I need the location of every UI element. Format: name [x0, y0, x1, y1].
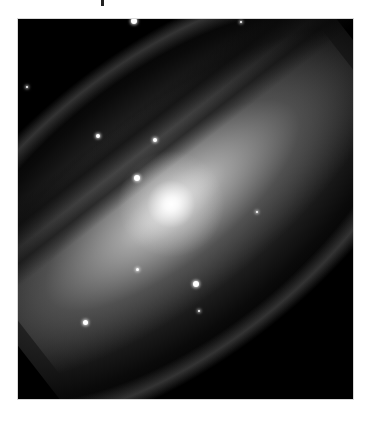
star	[240, 21, 242, 23]
star	[26, 86, 28, 88]
galaxy-core	[18, 19, 353, 399]
star	[256, 211, 258, 213]
star	[193, 281, 199, 287]
star	[198, 310, 200, 312]
star	[136, 268, 139, 271]
star	[153, 138, 157, 142]
cropped-text-mark	[101, 0, 104, 6]
star	[83, 320, 88, 325]
star	[134, 175, 140, 181]
galaxy-image	[18, 19, 353, 399]
star	[96, 134, 100, 138]
